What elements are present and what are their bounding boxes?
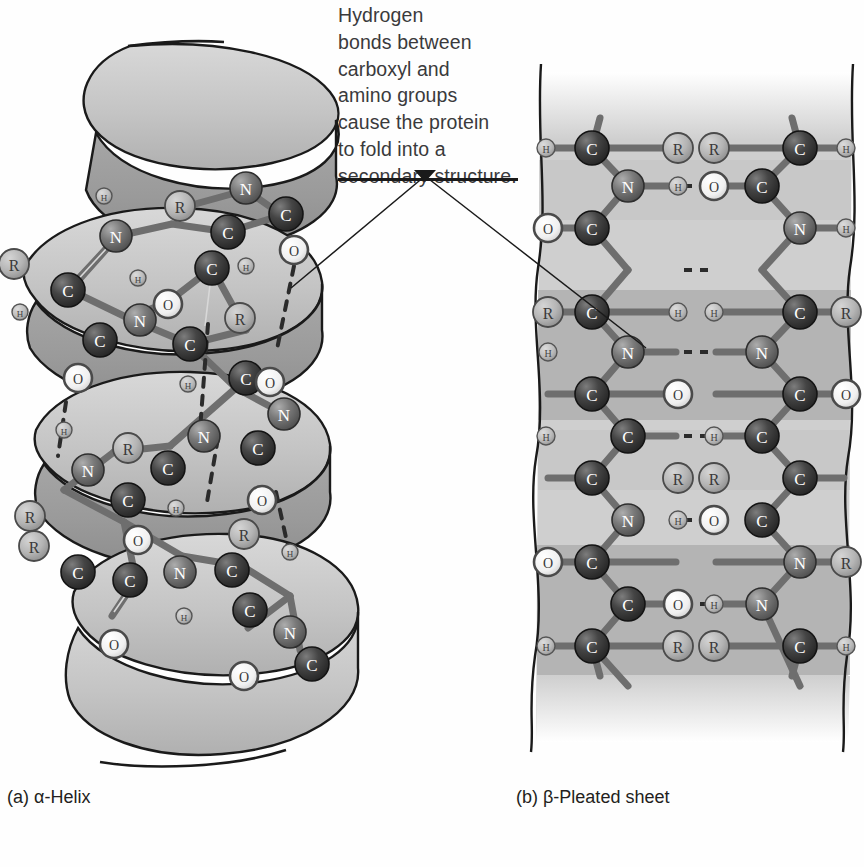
atom-sidechain: R xyxy=(165,191,195,221)
atom-hydrogen: H xyxy=(669,303,687,321)
atom-sidechain: R xyxy=(699,463,729,493)
atom-sidechain: R xyxy=(663,631,693,661)
svg-text:H: H xyxy=(135,275,142,285)
atom-carbon: C xyxy=(295,647,329,681)
svg-text:O: O xyxy=(289,244,299,259)
caption-anchor xyxy=(414,170,436,182)
atom-carbon: C xyxy=(575,461,609,495)
svg-text:O: O xyxy=(841,388,851,403)
atom-nitrogen: N xyxy=(164,556,196,588)
svg-text:N: N xyxy=(82,462,94,481)
svg-text:C: C xyxy=(240,370,251,389)
svg-text:C: C xyxy=(206,260,217,279)
atom-carbon: C xyxy=(783,461,817,495)
atom-hydrogen: H xyxy=(669,177,687,195)
svg-text:C: C xyxy=(756,428,767,447)
atom-oxygen: O xyxy=(124,526,152,554)
atom-sidechain: R xyxy=(663,133,693,163)
svg-text:N: N xyxy=(284,624,296,643)
atom-carbon: C xyxy=(51,273,85,307)
atom-hydrogen: H xyxy=(282,544,298,560)
atom-hydrogen: H xyxy=(537,427,555,445)
atom-sidechain: R xyxy=(533,297,563,327)
atom-carbon: C xyxy=(575,295,609,329)
svg-text:R: R xyxy=(235,311,246,328)
svg-text:R: R xyxy=(543,305,554,322)
svg-text:N: N xyxy=(278,406,290,425)
atom-carbon: C xyxy=(211,215,245,249)
atom-hydrogen: H xyxy=(537,637,555,655)
svg-text:C: C xyxy=(586,386,597,405)
atom-hydrogen: H xyxy=(168,500,184,516)
atom-nitrogen: N xyxy=(746,336,778,368)
atom-carbon: C xyxy=(575,545,609,579)
atom-sidechain: R xyxy=(663,463,693,493)
svg-text:C: C xyxy=(124,572,135,591)
atom-sidechain: R xyxy=(113,433,143,463)
atom-hydrogen: H xyxy=(130,270,146,286)
svg-text:N: N xyxy=(622,344,634,363)
atom-carbon: C xyxy=(745,503,779,537)
svg-text:H: H xyxy=(674,182,681,193)
svg-text:N: N xyxy=(794,220,806,239)
atom-hydrogen: H xyxy=(238,258,254,274)
atom-oxygen: O xyxy=(100,630,128,658)
svg-text:N: N xyxy=(794,554,806,573)
atom-carbon: C xyxy=(783,629,817,663)
atom-carbon: C xyxy=(215,553,249,587)
atom-oxygen: O xyxy=(154,290,182,318)
svg-text:C: C xyxy=(280,206,291,225)
svg-text:C: C xyxy=(794,304,805,323)
svg-text:C: C xyxy=(226,562,237,581)
atom-carbon: C xyxy=(745,419,779,453)
svg-text:H: H xyxy=(181,613,188,623)
svg-text:C: C xyxy=(794,386,805,405)
atom-nitrogen: N xyxy=(268,398,300,430)
svg-text:C: C xyxy=(244,602,255,621)
panel-label-b: (b) β-Pleated sheet xyxy=(516,787,669,808)
svg-text:N: N xyxy=(756,344,768,363)
atom-oxygen: O xyxy=(664,590,692,618)
atom-hydrogen: H xyxy=(705,427,723,445)
atom-nitrogen: N xyxy=(612,504,644,536)
svg-text:C: C xyxy=(622,596,633,615)
atom-carbon: C xyxy=(745,169,779,203)
svg-text:C: C xyxy=(62,282,73,301)
atom-hydrogen: H xyxy=(837,139,855,157)
svg-text:N: N xyxy=(110,228,122,247)
svg-text:C: C xyxy=(794,638,805,657)
atom-nitrogen: N xyxy=(784,546,816,578)
svg-text:H: H xyxy=(842,144,849,155)
svg-text:O: O xyxy=(133,534,143,549)
atom-carbon: C xyxy=(575,377,609,411)
svg-text:C: C xyxy=(306,656,317,675)
svg-text:R: R xyxy=(841,305,852,322)
svg-text:N: N xyxy=(198,428,210,447)
figure-canvas: Hydrogen bonds between carboxyl and amin… xyxy=(0,0,864,867)
svg-text:O: O xyxy=(257,494,267,509)
atom-carbon: C xyxy=(611,587,645,621)
svg-text:C: C xyxy=(122,492,133,511)
svg-text:H: H xyxy=(287,549,294,559)
svg-text:C: C xyxy=(794,470,805,489)
svg-text:C: C xyxy=(222,224,233,243)
svg-text:C: C xyxy=(756,512,767,531)
atom-nitrogen: N xyxy=(612,170,644,202)
svg-text:C: C xyxy=(586,220,597,239)
atom-carbon: C xyxy=(575,629,609,663)
svg-text:C: C xyxy=(622,428,633,447)
atom-carbon: C xyxy=(61,555,95,589)
atom-sidechain: R xyxy=(229,519,259,549)
svg-text:H: H xyxy=(542,642,549,653)
svg-text:R: R xyxy=(673,471,684,488)
svg-text:H: H xyxy=(61,427,68,437)
atom-oxygen: O xyxy=(700,172,728,200)
svg-text:C: C xyxy=(252,440,263,459)
svg-text:H: H xyxy=(101,193,108,203)
svg-text:R: R xyxy=(29,539,40,556)
atom-carbon: C xyxy=(575,211,609,245)
svg-text:R: R xyxy=(709,639,720,656)
svg-text:N: N xyxy=(134,312,146,331)
atom-carbon: C xyxy=(269,197,303,231)
panel-label-a: (a) α-Helix xyxy=(7,787,90,808)
